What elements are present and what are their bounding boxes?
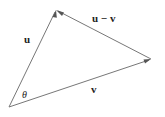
arrowhead-u-icon — [53, 10, 57, 18]
vector-u — [9, 10, 57, 107]
arrowhead-u-minus-v-icon — [56, 10, 64, 16]
vector-diagram: u u − v v θ — [0, 0, 165, 117]
label-u: u — [24, 33, 30, 45]
label-u-minus-v: u − v — [92, 12, 116, 24]
vector-v — [9, 59, 151, 107]
arrowhead-v-icon — [144, 59, 152, 64]
label-theta: θ — [22, 89, 27, 100]
label-v: v — [91, 83, 97, 95]
